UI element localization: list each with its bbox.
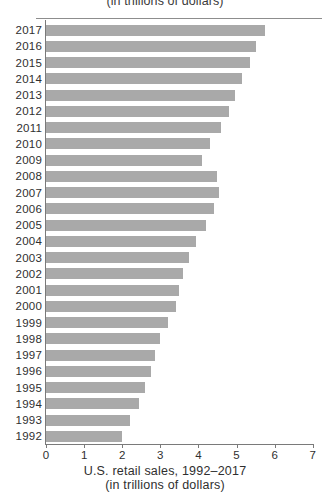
bar-1999 xyxy=(46,317,168,328)
chart-row: 2001 xyxy=(0,282,330,298)
y-axis-tick-label: 1999 xyxy=(0,315,42,331)
y-axis-tick-label: 2010 xyxy=(0,136,42,152)
chart-row: 1992 xyxy=(0,428,330,444)
y-axis-tick-label: 2001 xyxy=(0,282,42,298)
x-axis-tick-label: 7 xyxy=(301,449,325,461)
bar-2010 xyxy=(46,138,210,149)
bar-2014 xyxy=(46,73,242,84)
y-axis-tick-label: 2009 xyxy=(0,152,42,168)
chart-row: 1993 xyxy=(0,412,330,428)
bar-chart-figure: (in trillions of dollars) 20172016201520… xyxy=(0,0,330,492)
bar-2008 xyxy=(46,171,217,182)
x-axis-tick-label: 1 xyxy=(72,449,96,461)
bar-2013 xyxy=(46,90,235,101)
bar-1992 xyxy=(46,431,122,442)
bar-2005 xyxy=(46,220,206,231)
chart-row: 1995 xyxy=(0,380,330,396)
chart-row: 2004 xyxy=(0,233,330,249)
bar-2000 xyxy=(46,301,176,312)
y-axis-tick-label: 2015 xyxy=(0,55,42,71)
x-axis-tick-label: 6 xyxy=(263,449,287,461)
x-axis-tick-label: 0 xyxy=(34,449,58,461)
chart-row: 2007 xyxy=(0,185,330,201)
bar-2017 xyxy=(46,25,265,36)
x-axis-tick xyxy=(84,444,85,448)
x-axis-tick-label: 2 xyxy=(110,449,134,461)
chart-row: 2008 xyxy=(0,168,330,184)
bar-1998 xyxy=(46,333,160,344)
x-axis-tick-label: 5 xyxy=(225,449,249,461)
y-axis-tick-label: 2014 xyxy=(0,71,42,87)
y-axis-line xyxy=(45,20,46,445)
x-axis-tick xyxy=(237,444,238,448)
chart-row: 2002 xyxy=(0,266,330,282)
bar-2011 xyxy=(46,122,221,133)
y-axis-tick-label: 2007 xyxy=(0,185,42,201)
bar-1996 xyxy=(46,366,151,377)
x-axis-tick xyxy=(46,444,47,448)
bar-1994 xyxy=(46,398,139,409)
chart-caption-title: U.S. retail sales, 1992–2017 xyxy=(0,464,330,478)
y-axis-tick-label: 2005 xyxy=(0,217,42,233)
y-axis-tick-label: 2013 xyxy=(0,87,42,103)
bar-1997 xyxy=(46,350,155,361)
chart-caption-units: (in trillions of dollars) xyxy=(0,478,330,492)
bar-2006 xyxy=(46,203,214,214)
chart-row: 2015 xyxy=(0,55,330,71)
chart-row: 2016 xyxy=(0,38,330,54)
y-axis-tick-label: 2000 xyxy=(0,298,42,314)
y-axis-tick-label: 1994 xyxy=(0,396,42,412)
chart-row: 1994 xyxy=(0,396,330,412)
x-axis-tick-label: 3 xyxy=(148,449,172,461)
y-axis-tick-label: 1993 xyxy=(0,412,42,428)
chart-row: 2017 xyxy=(0,22,330,38)
y-axis-tick-label: 2012 xyxy=(0,103,42,119)
y-axis-tick-label: 1992 xyxy=(0,428,42,444)
chart-row: 1999 xyxy=(0,315,330,331)
y-axis-tick-label: 2006 xyxy=(0,201,42,217)
y-axis-tick-label: 1996 xyxy=(0,363,42,379)
chart-row: 2003 xyxy=(0,250,330,266)
bar-2016 xyxy=(46,41,256,52)
bar-2012 xyxy=(46,106,229,117)
y-axis-tick-label: 1997 xyxy=(0,347,42,363)
chart-row: 2006 xyxy=(0,201,330,217)
x-axis-tick xyxy=(275,444,276,448)
x-axis-line xyxy=(45,444,313,445)
chart-row: 2000 xyxy=(0,298,330,314)
x-axis-tick-label: 4 xyxy=(186,449,210,461)
bar-2003 xyxy=(46,252,189,263)
chart-row: 2012 xyxy=(0,103,330,119)
bar-1993 xyxy=(46,415,130,426)
chart-row: 2010 xyxy=(0,136,330,152)
y-axis-tick-label: 2004 xyxy=(0,233,42,249)
chart-row: 2005 xyxy=(0,217,330,233)
bar-2002 xyxy=(46,268,183,279)
chart-row: 2013 xyxy=(0,87,330,103)
chart-row: 2009 xyxy=(0,152,330,168)
x-axis-tick xyxy=(198,444,199,448)
y-axis-tick-label: 2002 xyxy=(0,266,42,282)
bar-2007 xyxy=(46,187,219,198)
chart-row: 1997 xyxy=(0,347,330,363)
y-axis-tick-label: 1998 xyxy=(0,331,42,347)
y-axis-tick-label: 1995 xyxy=(0,380,42,396)
y-axis-tick-label: 2008 xyxy=(0,168,42,184)
x-axis-tick xyxy=(313,444,314,448)
bar-2001 xyxy=(46,285,179,296)
bar-2009 xyxy=(46,155,202,166)
bar-1995 xyxy=(46,382,145,393)
x-axis-tick xyxy=(122,444,123,448)
y-axis-tick-label: 2011 xyxy=(0,120,42,136)
plot-area: 2017201620152014201320122011201020092008… xyxy=(0,22,330,442)
x-axis-tick xyxy=(160,444,161,448)
y-axis-tick-label: 2016 xyxy=(0,38,42,54)
bar-2015 xyxy=(46,57,250,68)
cropped-top-title: (in trillions of dollars) xyxy=(0,0,330,8)
chart-row: 2011 xyxy=(0,120,330,136)
y-axis-tick-label: 2017 xyxy=(0,22,42,38)
chart-row: 1996 xyxy=(0,363,330,379)
y-axis-tick-label: 2003 xyxy=(0,250,42,266)
top-rule-divider xyxy=(36,18,322,19)
chart-row: 1998 xyxy=(0,331,330,347)
